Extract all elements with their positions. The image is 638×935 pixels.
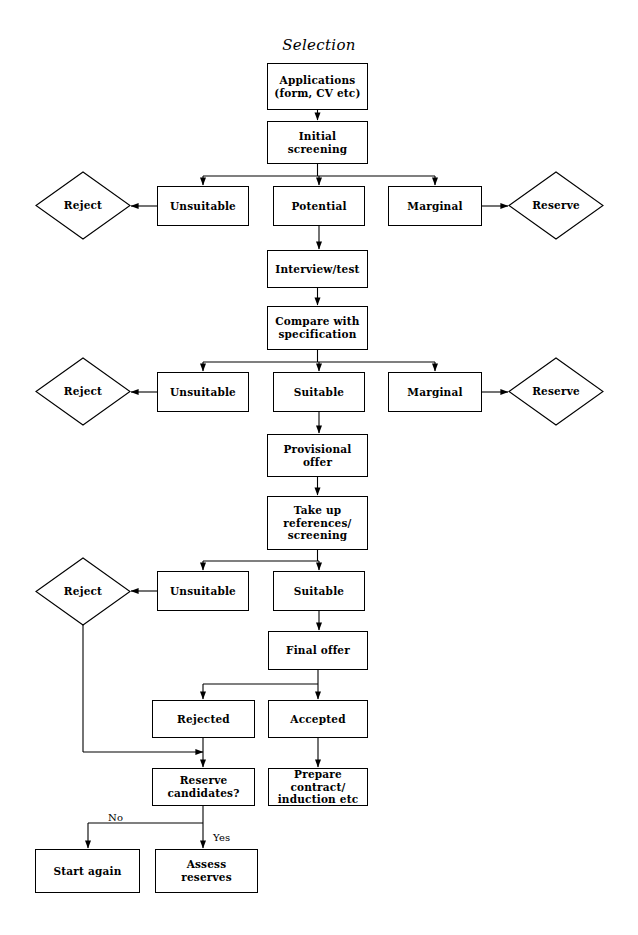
node-prepare-contract[interactable]: Prepare contract/ induction etc	[268, 768, 368, 806]
node-initial-screening[interactable]: Initial screening	[267, 121, 368, 164]
node-reject-2[interactable]: Reject	[36, 358, 130, 425]
node-unsuitable-2[interactable]: Unsuitable	[157, 372, 249, 412]
page-title: Selection	[0, 36, 638, 54]
node-reserve-candidates[interactable]: Reserve candidates?	[152, 768, 255, 806]
flowchart-canvas: Selection	[0, 0, 638, 935]
edge-label-no: No	[108, 812, 123, 823]
node-unsuitable-3[interactable]: Unsuitable	[157, 571, 249, 611]
edge-label-yes: Yes	[213, 832, 230, 843]
node-take-up-references[interactable]: Take up references/ screening	[267, 496, 368, 550]
node-marginal-1[interactable]: Marginal	[388, 186, 482, 226]
node-reserve-1[interactable]: Reserve	[509, 172, 603, 239]
node-applications[interactable]: Applications (form, CV etc)	[267, 63, 368, 110]
node-reserve-2[interactable]: Reserve	[509, 358, 603, 425]
node-potential[interactable]: Potential	[273, 186, 365, 226]
node-reject-3[interactable]: Reject	[36, 558, 130, 625]
node-compare-spec[interactable]: Compare with specification	[267, 306, 368, 350]
node-interview-test[interactable]: Interview/test	[267, 250, 368, 288]
node-provisional-offer[interactable]: Provisional offer	[267, 434, 368, 477]
node-final-offer[interactable]: Final offer	[268, 631, 368, 670]
node-marginal-2[interactable]: Marginal	[388, 372, 482, 412]
node-unsuitable-1[interactable]: Unsuitable	[157, 186, 249, 226]
node-accepted[interactable]: Accepted	[268, 700, 368, 738]
node-suitable-1[interactable]: Suitable	[273, 372, 365, 412]
node-rejected[interactable]: Rejected	[152, 700, 255, 738]
node-assess-reserves[interactable]: Assess reserves	[155, 849, 258, 893]
node-reject-1[interactable]: Reject	[36, 172, 130, 239]
node-suitable-2[interactable]: Suitable	[273, 571, 365, 611]
node-start-again[interactable]: Start again	[35, 849, 140, 893]
